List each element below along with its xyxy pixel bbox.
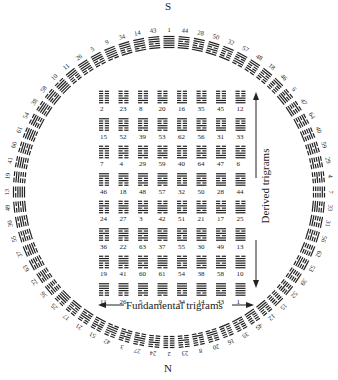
grid-hexagram-number: 52 xyxy=(120,133,128,141)
grid-hexagram-number: 12 xyxy=(237,105,245,113)
ring-hexagram xyxy=(219,323,234,338)
ring-hexagram xyxy=(267,78,283,94)
ring-hexagram-number: 22 xyxy=(29,278,38,287)
ring-hexagram xyxy=(55,78,71,94)
grid-hexagram-number: 62 xyxy=(178,133,186,141)
ring-hexagram xyxy=(104,46,119,61)
grid-hexagram xyxy=(216,173,226,186)
grid-hexagram-number: 8 xyxy=(139,105,143,113)
ring-hexagram xyxy=(23,242,38,257)
grid-hexagram-number: 29 xyxy=(139,160,147,168)
ring-hexagram xyxy=(66,68,82,84)
ring-hexagram xyxy=(164,36,175,48)
grid-hexagram xyxy=(158,146,168,159)
grid-hexagram xyxy=(216,146,226,159)
grid-hexagram-number: 64 xyxy=(198,160,206,168)
grid-hexagram xyxy=(99,201,109,214)
ring-hexagram-number: 20 xyxy=(212,343,220,352)
grid-hexagram xyxy=(197,256,207,269)
ring-hexagram-number: 45 xyxy=(255,322,264,331)
ring-hexagram-number: 36 xyxy=(38,290,48,300)
grid-hexagram-number: 15 xyxy=(100,133,108,141)
ring-hexagram-number: 18 xyxy=(267,62,276,72)
ring-hexagram-number: 38 xyxy=(29,97,38,106)
ring-hexagram-number: 40 xyxy=(315,125,324,134)
ring-hexagram-number: 39 xyxy=(299,278,308,287)
grid-hexagram-number: 2 xyxy=(100,105,104,113)
grid-hexagram xyxy=(197,228,207,241)
ring-hexagram-number: 1 xyxy=(167,26,170,33)
grid-hexagram-number: 13 xyxy=(237,243,245,251)
ring-hexagram xyxy=(13,187,25,198)
grid-hexagram-number: 6 xyxy=(237,160,241,168)
ring-hexagram-number: 63 xyxy=(21,264,30,273)
ring-hexagram-number: 49 xyxy=(4,204,12,211)
ring-hexagram xyxy=(313,187,325,198)
grid-hexagram xyxy=(158,173,168,186)
grid-hexagram-number: 36 xyxy=(100,243,108,251)
ring-hexagram xyxy=(118,328,132,343)
grid-hexagram-number: 21 xyxy=(198,215,206,223)
ring-hexagram xyxy=(36,101,52,117)
ring-hexagram xyxy=(277,279,293,295)
ring-hexagram-number: 7 xyxy=(328,190,335,194)
grid-hexagram xyxy=(236,228,246,241)
grid-hexagram xyxy=(138,173,148,186)
ring-hexagram-number: 17 xyxy=(61,312,71,322)
grid-hexagram xyxy=(99,256,109,269)
arrow-head-icon xyxy=(253,92,259,100)
ring-hexagram-number: 54 xyxy=(21,110,31,120)
ring-hexagram xyxy=(232,316,247,332)
grid-hexagram xyxy=(216,201,226,214)
grid-hexagram-number: 23 xyxy=(120,105,128,113)
grid-hexagram xyxy=(138,201,148,214)
grid-hexagram-number: 58 xyxy=(217,270,225,278)
hexagram-diagram: 1442850325748184664764405929473331566253… xyxy=(0,0,338,380)
grid-hexagram xyxy=(99,118,109,131)
grid-hexagram xyxy=(119,173,129,186)
grid-hexagram-number: 45 xyxy=(217,105,225,113)
grid-hexagram-number: 55 xyxy=(178,243,186,251)
grid-hexagram xyxy=(236,201,246,214)
ring-hexagram-number: 24 xyxy=(149,350,157,358)
grid-hexagram-number: 46 xyxy=(100,188,108,196)
ring-hexagram-number: 13 xyxy=(3,189,10,196)
ring-hexagram-number: 19 xyxy=(4,172,12,179)
ring-hexagram xyxy=(29,255,45,270)
ring-hexagram xyxy=(300,242,315,257)
grid-hexagram-number: 42 xyxy=(159,215,167,223)
grid-hexagram-number: 49 xyxy=(217,243,225,251)
grid-hexagram-number: 7 xyxy=(100,160,104,168)
ring-hexagram xyxy=(118,41,132,56)
ring-hexagram-number: 9 xyxy=(104,38,110,46)
grid-hexagram-number: 20 xyxy=(159,105,167,113)
grid-hexagram-number: 57 xyxy=(159,188,167,196)
ring-hexagram xyxy=(78,59,94,75)
ring-hexagram-number: 48 xyxy=(255,52,264,61)
ring-hexagram xyxy=(312,201,325,213)
ring-hexagram xyxy=(244,59,260,75)
ring-hexagram-number: 55 xyxy=(9,235,18,243)
ring-hexagram xyxy=(300,127,315,142)
grid-hexagram-number: 1 xyxy=(237,298,241,306)
grid-hexagram xyxy=(99,228,109,241)
grid-hexagram-number: 41 xyxy=(120,270,128,278)
ring-hexagram xyxy=(78,309,94,325)
grid-hexagram xyxy=(177,283,187,296)
ring-hexagram xyxy=(309,215,323,228)
ring-hexagram xyxy=(309,156,323,169)
grid-hexagram xyxy=(138,91,148,104)
grid-hexagram xyxy=(197,201,207,214)
ring-hexagram xyxy=(267,290,283,306)
grid-hexagram xyxy=(177,173,187,186)
ring-hexagram xyxy=(91,316,106,332)
grid-hexagram xyxy=(177,228,187,241)
ring-hexagram-number: 37 xyxy=(14,249,23,258)
ring-hexagram xyxy=(36,267,52,283)
grid-hexagram xyxy=(236,91,246,104)
diagram-canvas: 1442850325748184664764405929473331566253… xyxy=(0,0,338,380)
ring-hexagram xyxy=(133,38,146,52)
grid-hexagram-number: 61 xyxy=(159,270,167,278)
grid-hexagram xyxy=(177,146,187,159)
grid-hexagram-number: 56 xyxy=(198,133,206,141)
